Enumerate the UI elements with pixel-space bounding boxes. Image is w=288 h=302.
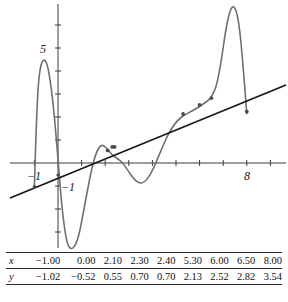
- interpolating-polynomial-curve: [34, 7, 246, 249]
- table-row-y: y −1.02 −0.52 0.55 0.70 0.70 2.13 2.52 2…: [6, 269, 282, 285]
- y-axis-label-5: 5: [40, 42, 46, 56]
- table-cell-y-4: 0.70: [149, 269, 176, 285]
- table-cell-y-2: 0.55: [95, 269, 122, 285]
- table-cell-x-0: −1.00: [25, 253, 60, 269]
- table-cell-y-3: 0.70: [122, 269, 149, 285]
- table-cell-x-1: 0.00: [60, 253, 95, 269]
- data-point-markers: [33, 96, 249, 188]
- table-cell-y-5: 2.13: [175, 269, 202, 285]
- data-table: x −1.00 0.00 2.10 2.30 2.40 5.30 6.00 6.…: [6, 252, 282, 285]
- plot-area: 5 −1 −1 8: [0, 0, 288, 250]
- table-cell-x-8: 8.00: [255, 253, 282, 269]
- table-cell-x-3: 2.30: [122, 253, 149, 269]
- table-cell-x-2: 2.10: [95, 253, 122, 269]
- table-row-x: x −1.00 0.00 2.10 2.30 2.40 5.30 6.00 6.…: [6, 253, 282, 269]
- y-axis-label-negative-1: −1: [61, 180, 75, 194]
- table-cell-y-0: −1.02: [25, 269, 60, 285]
- table-cell-x-5: 5.30: [175, 253, 202, 269]
- row-label-x: x: [6, 253, 25, 269]
- table-cell-x-4: 2.40: [149, 253, 176, 269]
- polynomial-interpolation-figure: 5 −1 −1 8 x −1.00 0.00 2.10 2.30 2.40 5.…: [0, 0, 288, 302]
- table-cell-y-7: 2.82: [229, 269, 256, 285]
- table-cell-y-8: 3.54: [255, 269, 282, 285]
- table-cell-y-6: 2.52: [202, 269, 229, 285]
- table-cell-x-6: 6.00: [202, 253, 229, 269]
- row-label-y: y: [6, 269, 25, 285]
- chart-svg: 5 −1 −1 8: [0, 0, 288, 250]
- table-cell-x-7: 6.50: [229, 253, 256, 269]
- x-axis-label-negative-1: −1: [27, 169, 41, 183]
- x-axis-label-8: 8: [244, 169, 250, 183]
- table-cell-y-1: −0.52: [60, 269, 95, 285]
